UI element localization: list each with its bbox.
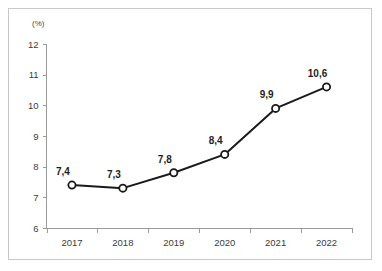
data-point-label: 7,3 <box>107 169 121 180</box>
y-tick-label: 8 <box>33 161 38 172</box>
y-tick-label: 7 <box>33 192 38 203</box>
series-marker <box>272 105 279 112</box>
series-marker <box>170 169 177 176</box>
y-tick-label: 11 <box>29 69 39 80</box>
series-marker <box>221 151 228 158</box>
x-tick-label: 2020 <box>214 237 235 248</box>
y-tick-label: 12 <box>28 39 39 50</box>
series-marker <box>68 181 75 188</box>
data-point-label: 10,6 <box>308 68 328 79</box>
x-tick-label: 2017 <box>61 237 82 248</box>
data-label-group: 7,47,37,88,49,910,6 <box>56 68 328 180</box>
y-tick-group: 1211109876 <box>28 39 47 234</box>
x-tick-label: 2022 <box>316 237 337 248</box>
series-marker <box>323 83 330 90</box>
data-point-label: 9,9 <box>260 89 274 100</box>
y-axis-unit-label: (%) <box>32 19 45 28</box>
chart-stage: 1211109876 201720182019202020212022 (%) … <box>0 0 382 271</box>
series-marker <box>119 185 126 192</box>
y-tick-label: 9 <box>33 131 38 142</box>
y-tick-label: 10 <box>28 100 39 111</box>
x-tick-label: 2019 <box>163 237 184 248</box>
x-tick-label: 2021 <box>265 237 286 248</box>
y-tick-label: 6 <box>33 223 38 234</box>
data-point-label: 7,4 <box>56 166 70 177</box>
data-point-label: 7,8 <box>158 154 172 165</box>
axis-group <box>47 44 353 229</box>
x-tick-label: 2018 <box>112 237 133 248</box>
line-chart: 1211109876 201720182019202020212022 (%) … <box>0 0 382 271</box>
data-point-label: 8,4 <box>209 135 223 146</box>
x-tick-group: 201720182019202020212022 <box>48 228 353 248</box>
